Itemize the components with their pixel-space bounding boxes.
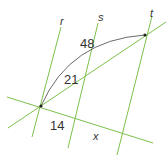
label-segment-21: 21 [64, 72, 78, 87]
line-t [117, 16, 152, 155]
label-r: r [60, 15, 65, 27]
arc-start-point [39, 104, 42, 107]
label-segment-x: x [92, 130, 99, 142]
label-s: s [98, 11, 104, 23]
label-t: t [150, 7, 154, 19]
label-segment-14: 14 [50, 118, 64, 133]
lower-transversal [7, 97, 153, 143]
label-arc-48: 48 [80, 36, 94, 51]
parallel-lines-diagram: r s t 48 21 14 x [0, 0, 167, 159]
arc-end-point [143, 33, 146, 36]
